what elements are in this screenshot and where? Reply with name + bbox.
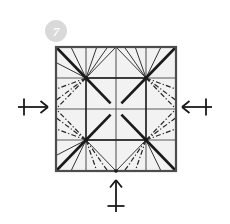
step-badge-label: 7 <box>53 24 60 39</box>
node-bottom-left <box>84 138 88 142</box>
step-number-badge: 7 <box>45 20 67 42</box>
push-arrow-left <box>18 99 48 116</box>
node-bottom-right <box>144 138 148 142</box>
node-top-left <box>84 76 88 80</box>
push-arrow-right <box>182 99 212 116</box>
node-top-right <box>144 76 148 80</box>
origami-step-diagram: 7 <box>0 0 230 224</box>
node-bottom-center <box>114 169 118 173</box>
crease-pattern-svg: 7 <box>0 0 230 224</box>
push-arrow-bottom <box>108 180 125 212</box>
